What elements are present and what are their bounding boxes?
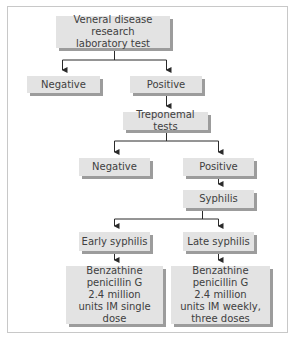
node-label: Benzathine penicillin G 2.4 million unit… — [66, 265, 163, 325]
node-treponemal-positive: Positive — [183, 158, 254, 176]
node-label: Negative — [41, 79, 86, 91]
node-label: Treponemal tests — [123, 109, 208, 133]
node-treponemal-negative: Negative — [79, 158, 150, 176]
node-label: Positive — [199, 161, 238, 173]
node-syphilis: Syphilis — [183, 190, 254, 208]
node-treponemal-tests: Treponemal tests — [123, 112, 208, 130]
node-early-syphilis: Early syphilis — [79, 232, 150, 251]
node-early-treatment: Benzathine penicillin G 2.4 million unit… — [66, 266, 163, 324]
node-label: Late syphilis — [187, 236, 249, 248]
node-label: Negative — [92, 161, 137, 173]
node-label: Syphilis — [199, 193, 238, 205]
node-label: Positive — [147, 79, 186, 91]
node-late-syphilis: Late syphilis — [183, 232, 254, 251]
node-vdrl-positive: Positive — [130, 76, 202, 93]
node-vdrl-test: Veneral disease research laboratory test — [56, 16, 170, 48]
node-late-treatment: Benzathine penicillin G 2.4 million unit… — [171, 266, 270, 324]
node-label: Veneral disease research laboratory test — [56, 14, 170, 50]
node-vdrl-negative: Negative — [27, 76, 100, 93]
node-label: Benzathine penicillin G 2.4 million unit… — [171, 265, 270, 325]
node-label: Early syphilis — [82, 236, 148, 248]
